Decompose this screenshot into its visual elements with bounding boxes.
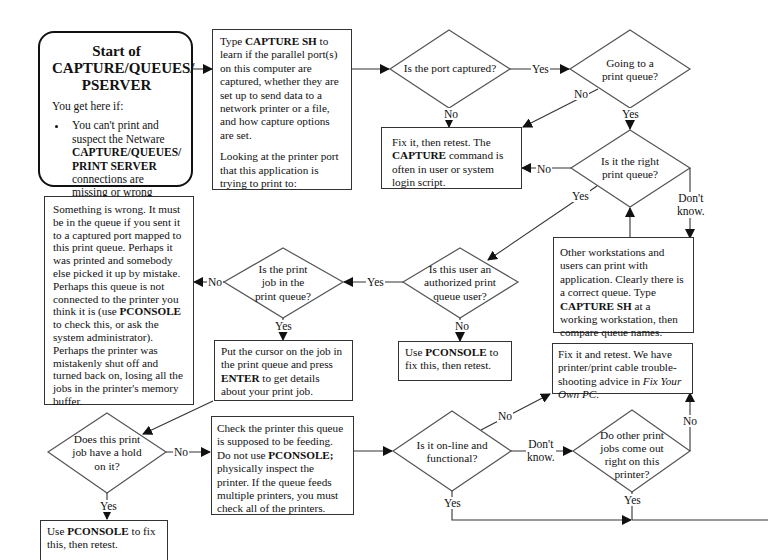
label-yes-authorized: Yes	[366, 276, 385, 288]
command-text: CAPTURE SH	[245, 35, 317, 47]
label-no-job-hold: No	[173, 446, 189, 458]
label-yes-online: Yes	[443, 497, 462, 509]
text: know.	[677, 205, 705, 217]
start-title: Start of CAPTURE/QUEUES/ PSERVER	[52, 43, 181, 94]
something-wrong-box: Something is wrong. It must be in the qu…	[44, 196, 194, 405]
text: know.	[527, 451, 555, 463]
decision-port-captured: Is the port captured?	[398, 60, 502, 78]
text: Don't	[528, 438, 553, 450]
label-yes-port-captured: Yes	[531, 63, 550, 75]
label-no-job-in-queue: No	[207, 276, 223, 288]
decision-right-queue: Is it the right print queue?	[590, 153, 670, 183]
text: Don't	[678, 192, 703, 204]
label-yes-job-hold: Yes	[99, 500, 118, 512]
command-text: CAPTURE	[392, 149, 446, 161]
start-box: Start of CAPTURE/QUEUES/ PSERVER You get…	[38, 31, 193, 187]
decision-job-hold: Does this print job have a hold on it?	[68, 432, 146, 474]
label-yes-other-jobs: Yes	[623, 494, 642, 506]
label-no-going-to-queue: No	[573, 88, 589, 100]
label-no-other-jobs: No	[682, 415, 698, 427]
text: Use	[405, 346, 425, 358]
decision-going-to-queue: Going to a print queue?	[595, 55, 665, 85]
label-no-right-queue: No	[536, 163, 552, 175]
decision-online-functional: Is it on-line and functional?	[407, 437, 497, 467]
text: Use	[47, 525, 67, 537]
label-yes-going-to-queue: Yes	[621, 108, 640, 120]
text: to learn if the parallel port(s) on this…	[220, 35, 339, 141]
start-subtitle: You get here if:	[52, 100, 181, 113]
label-dontknow-right-queue: Don'tknow.	[676, 192, 706, 218]
start-title-line: PSERVER	[52, 77, 181, 94]
start-condition-item: You can't print and suspect the Netware …	[68, 119, 181, 199]
command-text: PCONSOLE	[120, 305, 182, 317]
text: physically inspect the printer. If the q…	[217, 462, 338, 514]
pconsole-fix-hold-box: Use PCONSOLE to fix this, then retest.	[40, 520, 168, 560]
start-conditions: You can't print and suspect the Netware …	[52, 119, 181, 199]
text: Something is wrong. It must be in the qu…	[53, 203, 181, 317]
text: Type	[220, 35, 245, 47]
command-text: PCONSOLE	[67, 525, 129, 537]
decision-other-jobs: Do other print jobs come out right on th…	[590, 427, 674, 483]
decision-job-in-queue: Is the print job in the print queue?	[250, 262, 316, 304]
start-title-line: CAPTURE/QUEUES/	[52, 60, 181, 77]
command-text: ENTER	[221, 372, 260, 384]
text: You can't print and suspect the Netware	[72, 119, 165, 144]
command-text: CAPTURE SH	[560, 300, 632, 312]
capture-sh-note: Looking at the printer port that this ap…	[220, 150, 344, 190]
text: Put the cursor on the job in the print q…	[221, 345, 342, 370]
label-no-online: No	[497, 410, 513, 422]
fix-cable-box: Fix it and retest. We have printer/print…	[552, 343, 693, 394]
label-yes-job-in-queue: Yes	[274, 320, 293, 332]
command-text: PCONSOLE	[425, 346, 487, 358]
text: .	[596, 388, 599, 400]
label-yes-right-queue: Yes	[571, 190, 590, 202]
pconsole-fix-user-box: Use PCONSOLE to fix this, then retest.	[398, 341, 512, 381]
label-no-authorized: No	[454, 320, 470, 332]
text: Fix it, then retest. The	[392, 136, 491, 148]
command-text: PCONSOLE;	[268, 449, 333, 461]
check-printer-box: Check the printer this queue is supposed…	[211, 416, 354, 515]
capture-sh-instructions: Type CAPTURE SH to learn if the parallel…	[220, 35, 344, 142]
text: Other workstations and users can print w…	[560, 246, 684, 298]
put-cursor-box: Put the cursor on the job in the print q…	[214, 340, 353, 401]
start-title-line: Start of	[52, 43, 181, 60]
capture-sh-box: Type CAPTURE SH to learn if the parallel…	[212, 29, 352, 190]
text: to check this, or ask the system adminis…	[53, 318, 183, 407]
label-no-port-captured: No	[443, 108, 459, 120]
text: connections are missing or wrong	[72, 173, 153, 198]
fix-capture-box: Fix it, then retest. The CAPTURE command…	[381, 127, 522, 189]
label-dontknow-online: Don'tknow.	[526, 438, 556, 464]
decision-authorized-user: Is this user an authorized print queue u…	[420, 262, 500, 304]
other-workstations-box: Other workstations and users can print w…	[553, 237, 694, 333]
command-text: CAPTURE/QUEUES/ PRINT SERVER	[72, 146, 181, 171]
